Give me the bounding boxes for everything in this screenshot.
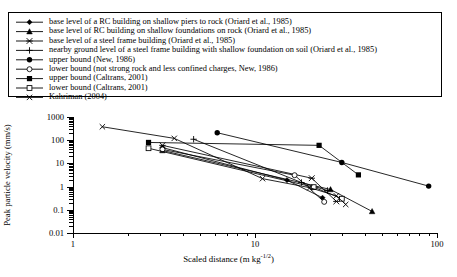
y-tick-label: 10 — [55, 158, 64, 168]
series-asterisk — [159, 142, 339, 204]
x-minor-tick — [429, 233, 430, 236]
legend-item-label: Kahriman (2004) — [49, 92, 107, 101]
x-minor-tick — [409, 233, 410, 236]
x-tick — [437, 233, 438, 238]
legend-item-label: base level of RC building on shallow fou… — [49, 26, 311, 35]
x-tick-label: 10 — [251, 239, 260, 249]
x-axis-title-text: Scaled distance (m kg — [183, 254, 260, 264]
x-tick — [73, 233, 74, 238]
legend-item-label: base level of a RC building on shallow p… — [49, 17, 292, 26]
legend-item-label: upper bound (New, 1986) — [49, 55, 135, 64]
x-minor-tick — [160, 233, 161, 236]
x-minor-tick — [365, 233, 366, 236]
legend-item: Kahriman (2004) — [9, 93, 443, 102]
x-axis-title-tail: ) — [271, 254, 274, 264]
series-circle-filled — [215, 130, 432, 189]
x-minor-tick — [128, 233, 129, 236]
x-minor-tick — [200, 233, 201, 236]
x-axis-title-exponent: -1/2 — [261, 252, 271, 259]
y-tick-label: 1 — [60, 182, 64, 192]
y-tick-label: 0.1 — [53, 205, 64, 215]
legend-item-label: upper bound (Caltrans, 2001) — [49, 73, 148, 82]
x-minor-tick — [247, 233, 248, 236]
x-tick — [255, 233, 256, 238]
x-tick-label: 100 — [431, 239, 444, 249]
x-minor-tick — [183, 233, 184, 236]
legend-item-label: base level of a steel frame building (Or… — [49, 36, 235, 45]
legend-item-label: nearby ground level of a steel frame bui… — [49, 45, 377, 54]
legend-item-label: lower bound (not strong rock and less co… — [49, 64, 278, 73]
y-tick-label: 0.01 — [49, 228, 64, 238]
x-minor-tick — [382, 233, 383, 236]
plot-area: 0.010.11101001000 110100 — [73, 117, 437, 233]
y-tick-label: 1000 — [47, 112, 64, 122]
x-minor-tick — [215, 233, 216, 236]
y-axis-title-text: Peak particle velocity (mm/s) — [2, 117, 12, 233]
x-minor-tick — [397, 233, 398, 236]
y-axis-title: Peak particle velocity (mm/s) — [2, 117, 14, 233]
x-minor-tick — [419, 233, 420, 236]
x-tick-label: 1 — [71, 239, 75, 249]
x-minor-tick — [342, 233, 343, 236]
legend-item-label: lower bound (Caltrans, 2001) — [49, 83, 148, 92]
data-series-layer — [73, 117, 437, 233]
x-axis-title: Scaled distance (m kg-1/2) — [0, 252, 457, 264]
x-minor-tick — [237, 233, 238, 236]
series-triangle-filled — [160, 148, 375, 214]
x-minor-tick — [310, 233, 311, 236]
series-diamond-filled — [160, 145, 325, 200]
y-tick-label: 100 — [51, 135, 64, 145]
x-minor-tick — [227, 233, 228, 236]
chart-legend: base level of a RC building on shallow p… — [8, 12, 442, 97]
chart-figure: base level of a RC building on shallow p… — [0, 0, 457, 277]
